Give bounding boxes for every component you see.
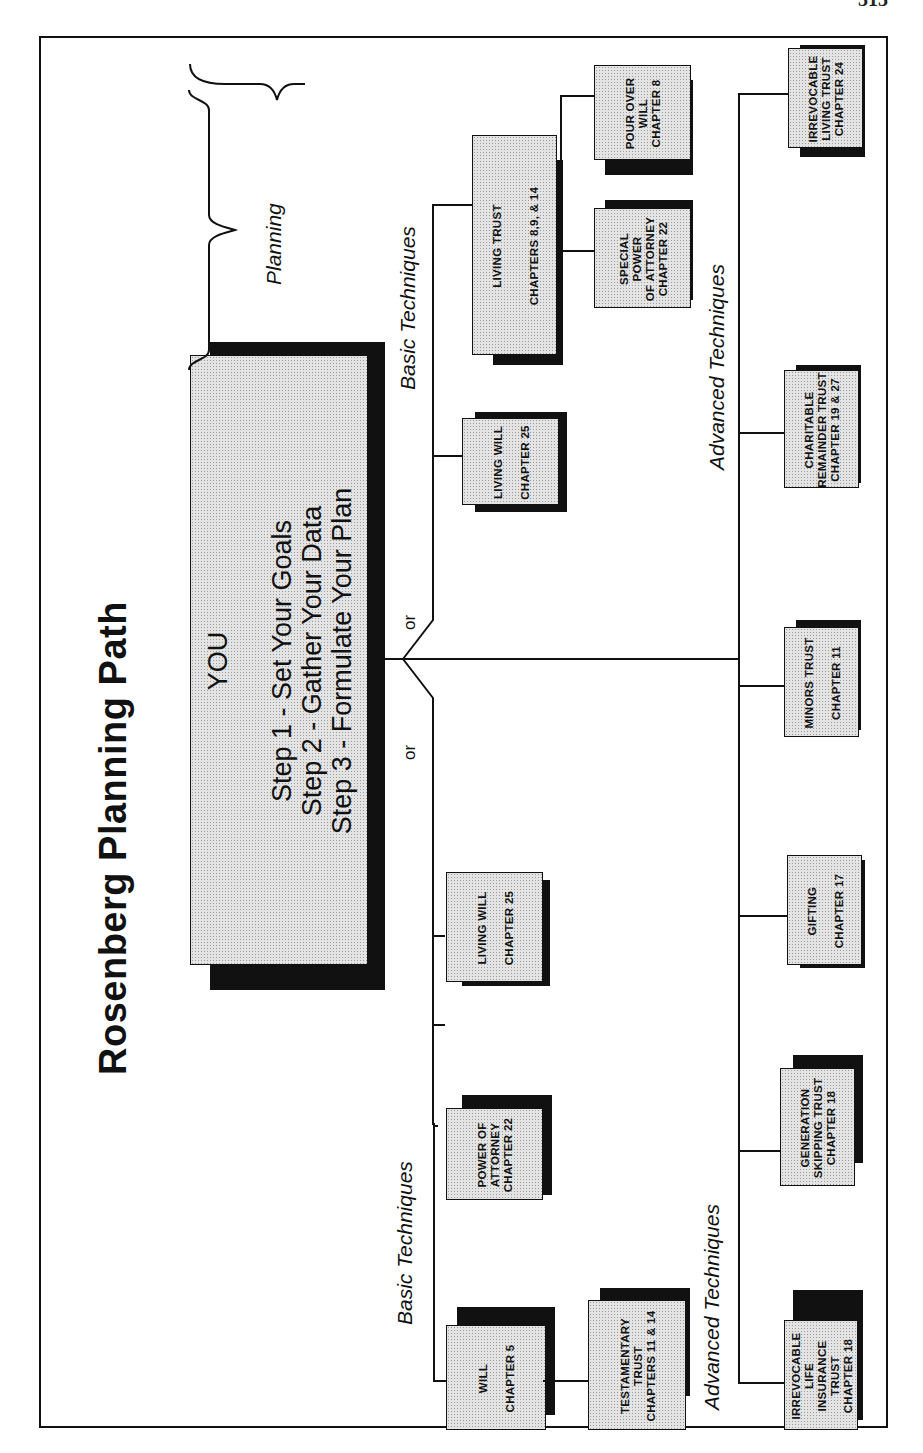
node-line: POUR OVER <box>624 78 637 150</box>
node-line: POWER OF <box>476 1123 489 1188</box>
connector <box>738 915 788 917</box>
connector <box>433 455 463 457</box>
connector <box>433 204 473 206</box>
node-line: CHAPTER 18 <box>825 1091 838 1166</box>
node-text: CHARITABLE REMAINDER TRUST CHAPTER 19 & … <box>785 371 860 489</box>
node-irrevocable-living-trust: IRREVOCABLE LIVING TRUST CHAPTER 24 <box>788 48 863 148</box>
node-text: WILL CHAPTER 5 <box>447 1326 547 1431</box>
you-box-content: YOU Step 1 - Set Your Goals Step 2 - Gat… <box>191 356 369 966</box>
you-box: YOU Step 1 - Set Your Goals Step 2 - Gat… <box>190 355 368 965</box>
node-line: REMAINDER TRUST <box>816 372 829 488</box>
node-line: GIFTING <box>806 887 819 936</box>
node-text: LIVING WILL CHAPTER 25 <box>447 873 544 983</box>
node-line: ATTORNEY <box>489 1123 502 1188</box>
node-line: CHAPTER 24 <box>833 62 846 137</box>
node-charitable-remainder-trust: CHARITABLE REMAINDER TRUST CHAPTER 19 & … <box>784 370 859 488</box>
node-living-will-right: LIVING WILL CHAPTER 25 <box>462 418 559 505</box>
section-basic-right: Basic Techniques <box>396 226 420 390</box>
connector <box>738 432 786 434</box>
or-label-right: or <box>400 615 420 630</box>
node-text: GIFTING CHAPTER 17 <box>788 856 863 966</box>
node-line: LIVING WILL <box>492 426 505 499</box>
node-line: CHAPTER 25 <box>503 891 516 966</box>
node-text: LIVING TRUST CHAPTERS 8,9, & 14 <box>473 136 558 356</box>
connector <box>560 95 595 97</box>
node-line: INSURANCE TRUST <box>816 1321 842 1431</box>
node-line: CHAPTERS 11 & 14 <box>645 1311 658 1422</box>
node-power-of-attorney: POWER OF ATTORNEY CHAPTER 22 <box>446 1108 543 1200</box>
or-label-left: or <box>400 745 420 760</box>
node-line: OF ATTORNEY <box>644 217 657 301</box>
node-line: WILL <box>477 1364 490 1393</box>
node-line: CHAPTERS 8,9, & 14 <box>528 187 541 306</box>
node-living-trust: LIVING TRUST CHAPTERS 8,9, & 14 <box>472 135 557 355</box>
section-advanced-left: Advanced Techniques <box>700 1204 724 1410</box>
connector <box>738 685 786 687</box>
brace-icon <box>183 70 253 390</box>
node-testamentary-trust: TESTAMENTARY TRUST CHAPTERS 11 & 14 <box>588 1300 686 1430</box>
step-2: Step 2 - Gather Your Data <box>297 506 327 817</box>
node-gifting: GIFTING CHAPTER 17 <box>787 855 862 965</box>
node-irrevocable-life-insurance-trust: IRREVOCABLE LIFE INSURANCE TRUST CHAPTER… <box>784 1320 858 1430</box>
planning-label: Planning <box>262 203 286 285</box>
node-minors-trust: MINORS TRUST CHAPTER 11 <box>784 627 859 737</box>
node-text: IRREVOCABLE LIFE INSURANCE TRUST CHAPTER… <box>785 1321 859 1431</box>
node-line: CHAPTER 11 <box>830 646 843 720</box>
node-line: CHAPTER 19 & 27 <box>829 378 842 482</box>
connector <box>738 1150 782 1152</box>
node-line: GENERATION <box>799 1089 812 1168</box>
node-will: WILL CHAPTER 5 <box>446 1325 546 1430</box>
node-text: POWER OF ATTORNEY CHAPTER 22 <box>447 1109 544 1201</box>
you-heading: YOU <box>203 632 233 691</box>
node-generation-skipping-trust: GENERATION SKIPPING TRUST CHAPTER 18 <box>780 1068 855 1186</box>
node-line: WILL <box>637 99 650 128</box>
node-living-will-left: LIVING WILL CHAPTER 25 <box>446 872 543 982</box>
node-line: CHARITABLE <box>803 392 816 469</box>
node-line: CHAPTER 22 <box>657 222 670 297</box>
advanced-spine-line <box>738 93 740 1383</box>
diagram-title: Rosenberg Planning Path <box>92 601 135 1075</box>
node-text: POUR OVER WILL CHAPTER 8 <box>595 66 692 161</box>
connector <box>433 1125 435 1381</box>
node-text: TESTAMENTARY TRUST CHAPTERS 11 & 14 <box>589 1301 687 1431</box>
diagram-frame <box>39 36 888 1428</box>
node-line: LIVING TRUST <box>491 204 504 287</box>
connector <box>738 1382 786 1384</box>
section-advanced-right: Advanced Techniques <box>705 264 729 470</box>
connector <box>433 1380 447 1382</box>
node-text: IRREVOCABLE LIVING TRUST CHAPTER 24 <box>789 49 864 149</box>
node-line: CHAPTER 25 <box>519 425 532 500</box>
node-line: CHAPTER 22 <box>502 1118 515 1193</box>
node-line: LIVING TRUST <box>820 57 833 140</box>
step-1: Step 1 - Set Your Goals <box>267 520 297 802</box>
node-text: GENERATION SKIPPING TRUST CHAPTER 18 <box>781 1069 856 1187</box>
node-line: CHAPTER 5 <box>504 1345 517 1413</box>
connector <box>433 935 445 937</box>
node-line: CHAPTER 8 <box>650 80 663 148</box>
node-pour-over-will: POUR OVER WILL CHAPTER 8 <box>594 65 691 160</box>
connector <box>433 1024 445 1026</box>
node-text: SPECIAL POWER OF ATTORNEY CHAPTER 22 <box>595 209 692 309</box>
node-line: TESTAMENTARY <box>619 1318 632 1414</box>
connector <box>560 250 595 252</box>
node-line: MINORS TRUST <box>803 637 816 728</box>
node-line: IRREVOCABLE LIFE <box>790 1321 816 1431</box>
node-line: CHAPTER 18 <box>842 1339 855 1414</box>
node-line: IRREVOCABLE <box>807 56 820 143</box>
node-special-power-of-attorney: SPECIAL POWER OF ATTORNEY CHAPTER 22 <box>594 208 691 308</box>
node-line: SPECIAL POWER <box>618 209 644 309</box>
section-basic-left: Basic Techniques <box>393 1161 417 1325</box>
node-line: SKIPPING TRUST <box>812 1078 825 1179</box>
step-3: Step 3 - Formulate Your Plan <box>327 488 357 835</box>
node-line: LIVING WILL <box>476 892 489 965</box>
page-number: 313 <box>858 0 888 11</box>
connector <box>738 93 790 95</box>
node-text: LIVING WILL CHAPTER 25 <box>463 419 560 506</box>
node-line: CHAPTER 17 <box>833 874 846 949</box>
connector <box>543 1380 589 1382</box>
node-line: TRUST <box>632 1346 645 1386</box>
node-text: MINORS TRUST CHAPTER 11 <box>785 628 860 738</box>
